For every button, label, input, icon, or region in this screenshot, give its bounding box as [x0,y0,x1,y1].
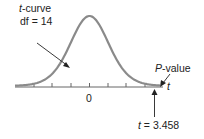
tstat-label-text: = 3.458 [141,119,179,131]
zero-tick-label: 0 [86,92,92,104]
pvalue-label: P-value [155,62,191,74]
curve-label: t-curve [19,2,51,14]
curve-pointer-line [37,43,68,66]
pvalue-label-text: -value [162,62,191,74]
tstat-pointer-arrowhead [152,89,158,95]
axis-label: t [167,80,170,92]
t-distribution-diagram: t-curve df = 14 P-value t 0 t = 3.458 [0,0,204,139]
curve-label-text: -curve [22,2,51,14]
axis-ticks [34,83,145,87]
pvalue-label-var: P [155,62,162,74]
tstat-label: t = 3.458 [138,119,179,131]
df-label: df = 14 [20,15,52,27]
pvalue-pointer-arrowhead [160,80,166,87]
